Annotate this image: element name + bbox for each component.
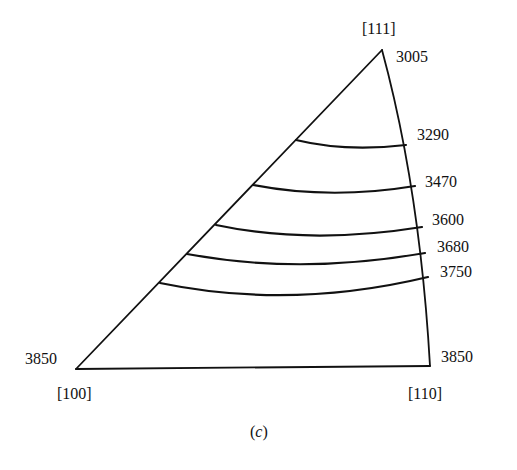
contour-3470 [253,185,415,193]
contour-3290 [296,140,406,148]
stereographic-triangle-diagram: [111] 3005 3850 [100] 3850 [110] 3290 34… [0,0,517,470]
label-value-100: 3850 [25,350,57,367]
label-direction-100: [100] [57,385,92,402]
caption-letter: c [255,423,262,440]
label-contour-3680: 3680 [437,238,469,255]
label-direction-110: [110] [408,385,442,402]
label-value-111: 3005 [396,48,428,65]
contour-3600 [216,225,422,236]
label-contour-3290: 3290 [417,126,449,143]
label-value-110: 3850 [441,348,473,365]
contour-3680 [187,253,425,264]
contour-3750 [160,277,428,295]
edge-100-110 [76,366,430,369]
edge-100-111 [76,50,382,369]
edge-111-110-arc [382,50,430,366]
label-contour-3470: 3470 [425,173,457,190]
label-contour-3600: 3600 [432,211,464,228]
label-direction-111: [111] [362,20,395,37]
label-contour-3750: 3750 [440,263,472,280]
figure-caption: (c) [250,423,268,441]
